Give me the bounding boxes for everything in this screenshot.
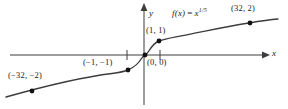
y-axis-arrow-icon — [141, 3, 148, 11]
plot-canvas — [0, 0, 288, 109]
data-point-one — [157, 39, 162, 44]
equals-sign: = — [185, 8, 194, 18]
point-label-neg32-neg2: (−32, −2) — [8, 70, 42, 80]
function-expression-label: f(x)=x1/5 — [172, 8, 207, 18]
data-point-32 — [248, 21, 253, 26]
data-point-neg32 — [30, 89, 35, 94]
x-axis-label: x — [272, 48, 276, 58]
function-graph-figure: f(x)=x1/5 (32, 2) (1, 1) (0, 0) (−1, −1)… — [0, 0, 288, 109]
data-point-neg1 — [126, 68, 131, 73]
point-label-1-1: (1, 1) — [146, 25, 166, 35]
point-label-0-0: (0, 0) — [147, 57, 167, 67]
function-name: f(x) — [172, 8, 185, 18]
point-label-neg1-neg1: (−1, −1) — [83, 57, 113, 67]
x-axis-arrow-icon — [262, 52, 270, 59]
point-label-32-2: (32, 2) — [231, 3, 255, 13]
function-curve — [6, 19, 278, 97]
y-axis-label: y — [149, 8, 153, 18]
function-exponent: 1/5 — [199, 7, 207, 13]
